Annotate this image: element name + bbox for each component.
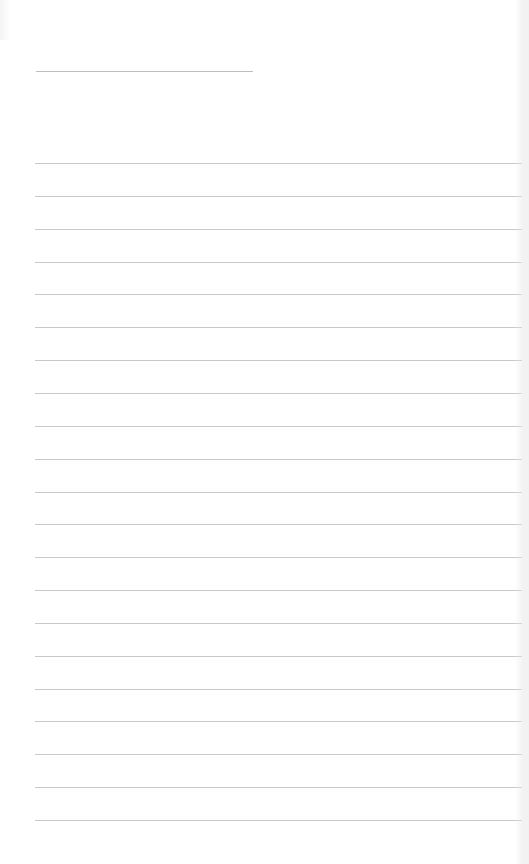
ruled-line [35,229,522,230]
ruled-line [35,294,522,295]
ruled-line [35,721,522,722]
ruled-line [35,459,522,460]
notepad-sheet [0,0,529,864]
ruled-line [35,820,522,821]
ruled-line [35,524,522,525]
ruled-line [35,623,522,624]
ruled-line [35,163,522,164]
ruled-line [35,787,522,788]
ruled-line [35,492,522,493]
corner-shade [0,0,10,40]
title-underline [36,71,253,72]
ruled-line [35,360,522,361]
ruled-line [35,262,522,263]
ruled-line [35,754,522,755]
ruled-line [35,656,522,657]
ruled-line [35,393,522,394]
ruled-line [35,590,522,591]
page-edge-shadow [515,0,529,864]
ruled-line [35,426,522,427]
ruled-line [35,557,522,558]
ruled-line [35,689,522,690]
ruled-line [35,196,522,197]
ruled-line [35,327,522,328]
